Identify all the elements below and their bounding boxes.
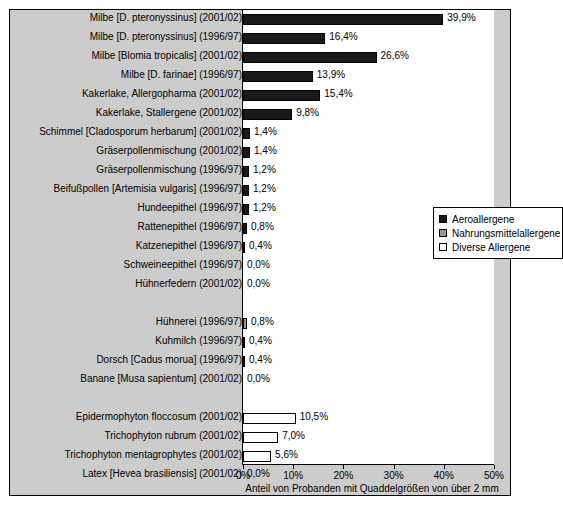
bar-food <box>243 337 245 348</box>
legend-label: Diverse Allergene <box>452 242 530 253</box>
x-axis-tick-label: 40% <box>434 470 454 481</box>
bar-category-label: Latex [Hevea brasiliensis] (2001/02) <box>82 468 242 480</box>
legend-swatch-icon <box>439 243 447 251</box>
bar-value-label: 10,5% <box>300 411 328 423</box>
bar-category-label: Gräserpollenmischung (2001/02) <box>96 145 242 157</box>
bar-category-label: Milbe [D. pteronyssinus] (2001/02) <box>90 12 242 24</box>
bar-category-label: Banane [Musa sapientum] (2001/02) <box>80 373 242 385</box>
chart-bar-row: Hühnerei (1996/97)0,8% <box>0 314 502 333</box>
bar-wrapper <box>243 337 245 348</box>
bar-wrapper <box>243 52 377 63</box>
legend-label: Nahrungsmittelallergene <box>452 228 560 239</box>
bar-diverse <box>243 413 296 424</box>
chart-bar-row: Gräserpollenmischung (1996/97)1,2% <box>0 162 502 181</box>
x-axis-tick <box>444 465 445 469</box>
bar-wrapper <box>243 318 247 329</box>
chart-bar-row: Epidermophyton floccosum (2001/02)10,5% <box>0 409 502 428</box>
chart-bar-row: Gräserpollenmischung (2001/02)1,4% <box>0 143 502 162</box>
bar-category-label: Trichophyton mentagrophytes (2001/02) <box>64 449 242 461</box>
bar-diverse <box>243 451 271 462</box>
bar-value-label: 0,0% <box>247 373 270 385</box>
bar-wrapper <box>243 185 249 196</box>
bar-aero <box>243 71 313 82</box>
chart-bar-row: Kakerlake, Allergopharma (2001/02)15,4% <box>0 86 502 105</box>
chart-bar-row: Rattenepithel (1996/97)0,8% <box>0 219 502 238</box>
bar-wrapper <box>243 128 250 139</box>
bar-aero <box>243 109 292 120</box>
bar-category-label: Hühnerei (1996/97) <box>156 316 242 328</box>
bar-value-label: 0,8% <box>251 316 274 328</box>
bar-aero <box>243 90 320 101</box>
x-axis-tick-label: 30% <box>384 470 404 481</box>
chart-bar-row: Banane [Musa sapientum] (2001/02)0,0% <box>0 371 502 390</box>
bar-value-label: 0,4% <box>249 354 272 366</box>
bar-aero <box>243 52 377 63</box>
chart-bar-row: Milbe [Blomia tropicalis] (2001/02)26,6% <box>0 48 502 67</box>
bar-category-label: Schweineepithel (1996/97) <box>124 259 242 271</box>
bar-category-label: Hundeepithel (1996/97) <box>137 202 242 214</box>
bar-wrapper <box>243 109 292 120</box>
bar-rows: Milbe [D. pteronyssinus] (2001/02)39,9%M… <box>0 10 502 485</box>
chart-bar-row: Schimmel [Cladosporum herbarum] (2001/02… <box>0 124 502 143</box>
bar-value-label: 1,4% <box>254 145 277 157</box>
legend-item-diverse-allergene: Diverse Allergene <box>439 240 556 254</box>
bar-category-label: Kakerlake, Allergopharma (2001/02) <box>82 88 242 100</box>
bar-wrapper <box>243 223 247 234</box>
x-axis-tick-label: 20% <box>333 470 353 481</box>
bar-value-label: 5,6% <box>275 449 298 461</box>
legend-item-aeroallergene: Aeroallergene <box>439 212 556 226</box>
bar-category-label: Beifußpollen [Artemisia vulgaris] (1996/… <box>54 183 242 195</box>
bar-value-label: 9,8% <box>296 107 319 119</box>
bar-aero <box>243 14 443 25</box>
bar-diverse <box>243 432 278 443</box>
chart-bar-row: Milbe [D. farinae] (1996/97)13,9% <box>0 67 502 86</box>
bar-aero <box>243 185 249 196</box>
bar-wrapper <box>243 432 278 443</box>
chart-bar-row <box>0 295 502 314</box>
bar-value-label: 1,4% <box>254 126 277 138</box>
bar-food <box>243 318 247 329</box>
bar-value-label: 0,0% <box>247 278 270 290</box>
bar-aero <box>243 242 245 253</box>
legend-swatch-icon <box>439 229 447 237</box>
chart-bar-row: Hühnerfedern (2001/02)0,0% <box>0 276 502 295</box>
x-axis-label: Anteil von Probanden mit Quaddelgrößen v… <box>232 483 512 494</box>
chart-bar-row: Kakerlake, Stallergene (2001/02)9,8% <box>0 105 502 124</box>
x-axis-tick <box>243 465 244 469</box>
bar-aero <box>243 128 250 139</box>
chart-bar-row: Trichophyton rubrum (2001/02)7,0% <box>0 428 502 447</box>
bar-category-label: Epidermophyton floccosum (2001/02) <box>76 411 242 423</box>
bar-wrapper <box>243 33 325 44</box>
bar-value-label: 1,2% <box>253 202 276 214</box>
chart-bar-row: Hundeepithel (1996/97)1,2% <box>0 200 502 219</box>
bar-category-label: Milbe [Blomia tropicalis] (2001/02) <box>91 50 242 62</box>
legend-swatch-icon <box>439 215 447 223</box>
bar-aero <box>243 166 249 177</box>
bar-wrapper <box>243 413 296 424</box>
bar-category-label: Rattenepithel (1996/97) <box>137 221 242 233</box>
bar-category-label: Trichophyton rubrum (2001/02) <box>105 430 242 442</box>
chart-bar-row: Trichophyton mentagrophytes (2001/02)5,6… <box>0 447 502 466</box>
x-axis-tick <box>343 465 344 469</box>
bar-wrapper <box>243 204 249 215</box>
chart-bar-row: Kuhmilch (1996/97)0,4% <box>0 333 502 352</box>
bar-value-label: 39,9% <box>447 12 475 24</box>
bar-value-label: 0,8% <box>251 221 274 233</box>
x-axis-tick-label: 0% <box>236 470 250 481</box>
bar-category-label: Kuhmilch (1996/97) <box>155 335 242 347</box>
bar-wrapper <box>243 166 249 177</box>
bar-category-label: Dorsch [Cadus morua] (1996/97) <box>96 354 242 366</box>
bar-category-label: Milbe [D. farinae] (1996/97) <box>121 69 242 81</box>
bar-wrapper <box>243 147 250 158</box>
chart-bar-row: Schweineepithel (1996/97)0,0% <box>0 257 502 276</box>
x-axis-tick <box>293 465 294 469</box>
bar-value-label: 1,2% <box>253 164 276 176</box>
chart-bar-row <box>0 390 502 409</box>
chart-bar-row: Milbe [D. pteronyssinus] (1996/97)16,4% <box>0 29 502 48</box>
bar-category-label: Katzenepithel (1996/97) <box>136 240 242 252</box>
bar-value-label: 15,4% <box>324 88 352 100</box>
bar-value-label: 0,4% <box>249 335 272 347</box>
x-axis-tick <box>394 465 395 469</box>
legend-item-nahrungsmittelallergene: Nahrungsmittelallergene <box>439 226 556 240</box>
